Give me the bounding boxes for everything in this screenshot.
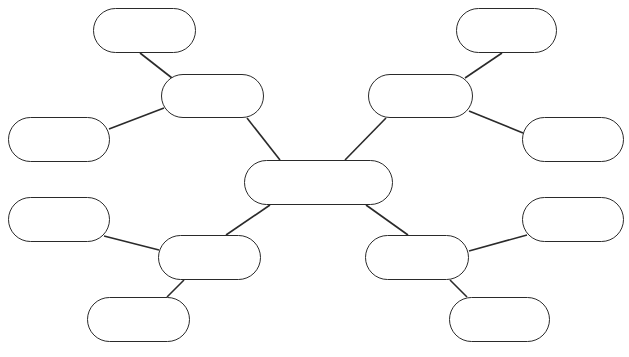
connector-lower-left-branch-to-lower-left-side-leaf: [104, 236, 159, 250]
node-center[interactable]: [244, 160, 393, 205]
connector-lower-right-branch-to-lower-right-bottom-leaf: [450, 280, 467, 297]
connector-lower-left-branch-to-lower-left-bottom-leaf: [167, 280, 184, 297]
node-upper-left-side-leaf[interactable]: [8, 117, 110, 162]
node-lower-right-branch[interactable]: [365, 235, 469, 280]
node-lower-right-bottom-leaf[interactable]: [449, 297, 550, 342]
node-lower-right-side-leaf[interactable]: [522, 197, 624, 242]
node-upper-right-top-leaf[interactable]: [456, 8, 557, 53]
node-upper-right-side-leaf[interactable]: [522, 117, 624, 162]
node-upper-right-branch[interactable]: [368, 74, 473, 118]
connector-center-to-upper-right-branch: [345, 118, 386, 160]
connector-lower-right-branch-to-lower-right-side-leaf: [469, 235, 527, 251]
node-lower-left-branch[interactable]: [158, 235, 261, 280]
connector-center-to-lower-right-branch: [366, 205, 408, 235]
connector-center-to-lower-left-branch: [226, 205, 270, 235]
connector-upper-left-branch-to-upper-left-side-leaf: [109, 108, 164, 129]
connector-upper-right-branch-to-upper-right-side-leaf: [469, 111, 523, 133]
node-upper-left-top-leaf[interactable]: [93, 8, 196, 53]
connector-upper-right-branch-to-upper-right-top-leaf: [465, 53, 502, 78]
node-upper-left-branch[interactable]: [161, 74, 264, 118]
node-lower-left-side-leaf[interactable]: [8, 197, 110, 242]
connector-upper-left-branch-to-upper-left-top-leaf: [140, 53, 172, 78]
node-lower-left-bottom-leaf[interactable]: [87, 297, 190, 342]
connector-center-to-upper-left-branch: [247, 118, 280, 160]
